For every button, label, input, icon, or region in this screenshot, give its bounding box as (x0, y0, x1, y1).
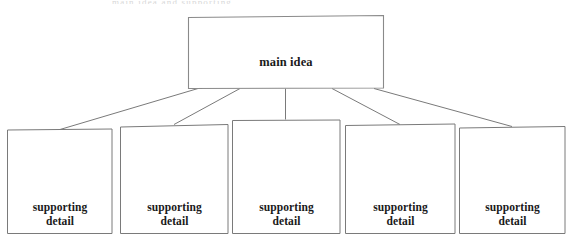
graphic-organizer-page: main idea and supporting (0, 0, 571, 247)
main-idea-label: main idea (188, 55, 384, 70)
supporting-detail-label-4: supporting detail (346, 200, 455, 228)
connector-line-1 (60, 89, 198, 130)
connector-line-2 (174, 89, 240, 125)
supporting-detail-label-5: supporting detail (460, 200, 565, 228)
connector-line-5 (374, 89, 512, 127)
main-idea-box[interactable] (189, 16, 384, 89)
supporting-detail-label-3: supporting detail (233, 200, 340, 228)
supporting-detail-label-1: supporting detail (8, 200, 112, 228)
supporting-detail-label-2: supporting detail (121, 200, 228, 228)
connector-line-4 (332, 89, 400, 125)
